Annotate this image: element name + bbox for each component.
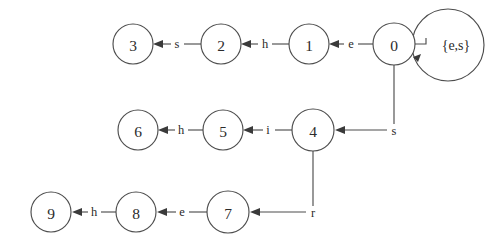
- edge-4-to-7: r: [250, 151, 316, 220]
- edge-8-to-9: h: [72, 205, 116, 219]
- edge-8-to-9-label: h: [91, 205, 98, 219]
- node-6-label: 6: [134, 123, 142, 140]
- edge-4-to-5: i: [243, 123, 292, 137]
- state-transition-diagram: {e,s} e h s s: [0, 0, 499, 248]
- node-0-label: 0: [390, 37, 398, 54]
- node-9-label: 9: [47, 205, 55, 222]
- node-4[interactable]: 4: [292, 109, 334, 151]
- edge-0-to-4-label: s: [392, 124, 397, 138]
- edge-2-to-3: s: [153, 37, 201, 51]
- edge-7-to-8-arrowhead: [157, 208, 167, 216]
- edge-1-to-2: h: [241, 37, 289, 51]
- edge-4-to-5-label: i: [266, 123, 270, 137]
- edge-0-to-4-arrowhead: [335, 126, 345, 134]
- edge-1-to-2-label: h: [262, 37, 269, 51]
- edge-4-to-7-label: r: [311, 206, 316, 220]
- node-6[interactable]: 6: [118, 110, 158, 150]
- graph-canvas: {e,s} e h s s: [0, 0, 499, 248]
- edge-5-to-6-label: h: [178, 123, 185, 137]
- node-3-label: 3: [129, 37, 137, 54]
- node-8-label: 8: [132, 205, 140, 222]
- node-3[interactable]: 3: [113, 24, 153, 64]
- node-4-label: 4: [309, 123, 317, 140]
- edge-1-to-2-arrowhead: [241, 40, 251, 48]
- self-loop-arrowhead: [413, 54, 421, 62]
- edge-5-to-6-arrowhead: [158, 126, 168, 134]
- edge-0-to-4: s: [335, 65, 397, 138]
- edge-0-to-1-label: e: [348, 37, 354, 51]
- edge-7-to-8-label: e: [179, 205, 185, 219]
- edge-5-to-6: h: [158, 123, 203, 137]
- node-2-label: 2: [217, 37, 225, 54]
- node-7-label: 7: [224, 205, 232, 222]
- node-7[interactable]: 7: [207, 191, 249, 233]
- edge-2-to-3-label: s: [175, 37, 180, 51]
- node-1[interactable]: 1: [289, 24, 329, 64]
- edge-0-to-1: e: [329, 37, 373, 51]
- edge-4-to-7-arrowhead: [250, 208, 260, 216]
- node-9[interactable]: 9: [31, 192, 71, 232]
- edge-0-to-1-arrowhead: [329, 40, 339, 48]
- self-loop-node-0: {e,s}: [412, 9, 484, 81]
- node-1-label: 1: [305, 37, 313, 54]
- edge-8-to-9-arrowhead: [72, 208, 82, 216]
- edge-4-to-5-arrowhead: [243, 126, 253, 134]
- node-5-label: 5: [219, 123, 227, 140]
- node-8[interactable]: 8: [116, 192, 156, 232]
- node-5[interactable]: 5: [203, 110, 243, 150]
- self-loop-stub: [415, 38, 426, 44]
- node-0[interactable]: 0: [373, 23, 415, 65]
- edge-7-to-8: e: [157, 205, 207, 219]
- node-2[interactable]: 2: [201, 24, 241, 64]
- self-loop-label: {e,s}: [442, 38, 471, 53]
- edge-2-to-3-arrowhead: [153, 40, 163, 48]
